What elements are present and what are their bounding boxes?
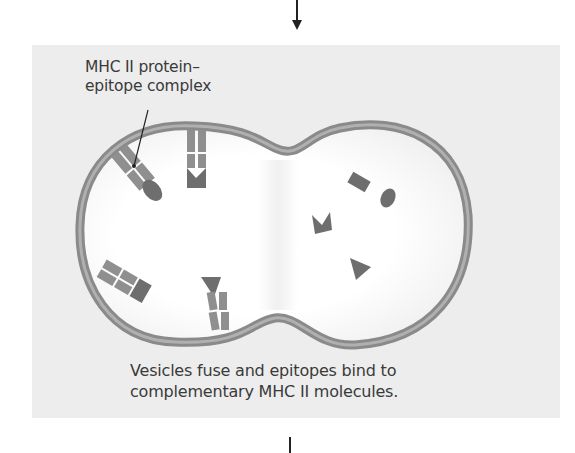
caption-line2: complementary MHC II molecules. xyxy=(130,381,398,402)
fused-vesicle xyxy=(80,125,468,345)
caption-line1: Vesicles fuse and epitopes bind to xyxy=(130,360,398,381)
complex-label-line1: MHC II protein– xyxy=(85,58,211,77)
caption: Vesicles fuse and epitopes bind to compl… xyxy=(130,360,398,402)
down-arrow-icon xyxy=(292,0,302,30)
complex-label: MHC II protein– epitope complex xyxy=(85,58,211,96)
complex-label-line2: epitope complex xyxy=(85,77,211,96)
